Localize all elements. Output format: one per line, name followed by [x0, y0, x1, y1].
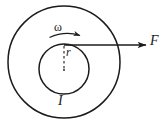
radius-label: r: [66, 46, 71, 58]
moment-of-inertia-label: I: [58, 94, 63, 108]
force-label: F: [150, 34, 159, 48]
physics-diagram-figure: ω r F I: [0, 0, 166, 125]
center-dot: [63, 69, 65, 71]
diagram-canvas: [0, 0, 166, 125]
angular-velocity-label: ω: [54, 21, 62, 33]
rotation-arc-arrow: [50, 33, 81, 37]
